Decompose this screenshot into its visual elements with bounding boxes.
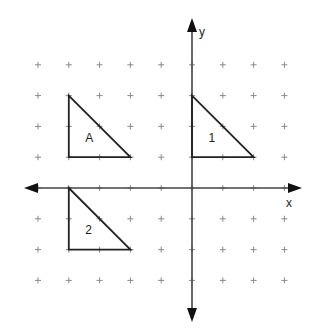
grid-point	[158, 62, 164, 68]
grid-point	[251, 277, 257, 283]
grid-point	[251, 247, 257, 253]
grid-point	[251, 123, 257, 129]
grid-point	[97, 62, 103, 68]
grid-point	[97, 277, 103, 283]
triangle-2	[69, 188, 131, 250]
grid-point	[35, 277, 41, 283]
axes: x y	[24, 18, 302, 322]
grid-point	[220, 277, 226, 283]
grid-point	[281, 216, 287, 222]
grid-point	[158, 277, 164, 283]
y-axis-up-arrow-icon	[187, 18, 197, 32]
x-axis-right-arrow-icon	[288, 183, 302, 193]
triangle-1-label: 1	[209, 131, 216, 145]
grid-point	[281, 277, 287, 283]
grid-point	[220, 216, 226, 222]
grid-point	[35, 62, 41, 68]
y-axis-down-arrow-icon	[187, 308, 197, 322]
grid-point	[127, 123, 133, 129]
grid-point	[35, 93, 41, 99]
grid-point	[281, 247, 287, 253]
grid-point	[66, 62, 72, 68]
triangle-1	[192, 96, 254, 158]
triangle-A-label: A	[85, 131, 93, 145]
grid-point	[35, 247, 41, 253]
grid-point	[127, 62, 133, 68]
grid-point	[127, 277, 133, 283]
x-axis-label: x	[286, 196, 292, 210]
coordinate-grid-diagram: x y A 1 2	[0, 0, 319, 336]
grid-point	[35, 216, 41, 222]
grid-point	[220, 247, 226, 253]
grid-point	[127, 93, 133, 99]
grid-point	[97, 93, 103, 99]
grid-point	[281, 123, 287, 129]
grid-point	[158, 154, 164, 160]
grid-point	[281, 154, 287, 160]
grid-point	[281, 62, 287, 68]
grid-point	[35, 123, 41, 129]
grid-point	[66, 277, 72, 283]
grid-point	[158, 123, 164, 129]
grid-point	[158, 247, 164, 253]
grid-point	[220, 62, 226, 68]
grid-point	[220, 93, 226, 99]
y-axis-label: y	[199, 25, 205, 39]
grid-point	[251, 216, 257, 222]
grid-point	[158, 216, 164, 222]
triangle-2-label: 2	[85, 223, 92, 237]
grid-point	[35, 154, 41, 160]
x-axis-left-arrow-icon	[24, 183, 38, 193]
triangle-A	[69, 96, 131, 158]
grid-point	[281, 93, 287, 99]
triangles: A 1 2	[69, 96, 254, 250]
grid-point	[127, 216, 133, 222]
grid-point	[251, 62, 257, 68]
grid-point	[251, 93, 257, 99]
grid-point	[158, 93, 164, 99]
